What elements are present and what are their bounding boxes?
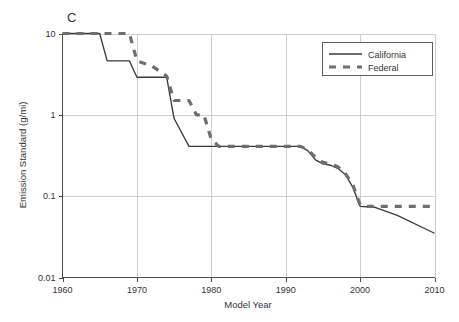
x-tick-label: 1970 (127, 285, 147, 295)
y-tick-label: 0.1 (43, 191, 56, 201)
x-axis-title: Model Year (224, 299, 272, 310)
panel-label: C (67, 10, 76, 25)
emission-standard-line-chart: C 196019701980199020002010 0.010.1110 Mo… (0, 0, 459, 322)
y-tick-label: 1 (50, 110, 55, 120)
x-tick-label: 1960 (52, 285, 72, 295)
legend-label-federal: Federal (368, 63, 399, 73)
chart-legend[interactable]: California Federal (323, 43, 433, 76)
chart-figure: C 196019701980199020002010 0.010.1110 Mo… (0, 0, 459, 322)
x-tick-label: 2000 (350, 285, 370, 295)
y-tick-label: 0.01 (38, 273, 56, 283)
x-tick-label: 1980 (201, 285, 221, 295)
x-tick-label: 2010 (424, 285, 444, 295)
y-tick-label: 10 (45, 29, 55, 39)
x-tick-label: 1990 (276, 285, 296, 295)
y-axis-title: Emission Standard (g/mi) (17, 102, 28, 209)
legend-label-california: California (368, 50, 406, 60)
